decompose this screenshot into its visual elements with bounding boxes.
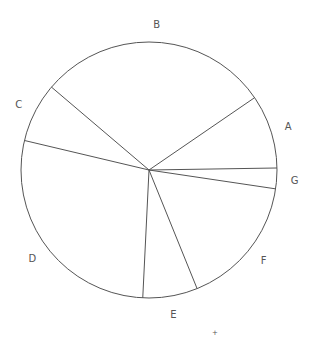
- slice-divider: [51, 87, 149, 170]
- pie-chart: ABCDEFG +: [0, 0, 312, 339]
- stray-marker: +: [212, 329, 218, 337]
- slice-divider: [149, 170, 276, 189]
- slice-label-d: D: [28, 253, 36, 264]
- slice-label-g: G: [291, 175, 299, 186]
- slice-divider: [149, 168, 277, 170]
- slice-label-a: A: [285, 121, 292, 132]
- slice-divider: [149, 170, 197, 289]
- slice-dividers: [24, 87, 277, 298]
- slice-divider: [24, 140, 149, 170]
- slice-label-f: F: [261, 255, 267, 266]
- slice-divider: [143, 170, 149, 298]
- slice-label-b: B: [153, 19, 160, 30]
- slice-divider: [149, 98, 255, 170]
- slice-label-e: E: [170, 309, 176, 320]
- slice-label-c: C: [15, 99, 22, 110]
